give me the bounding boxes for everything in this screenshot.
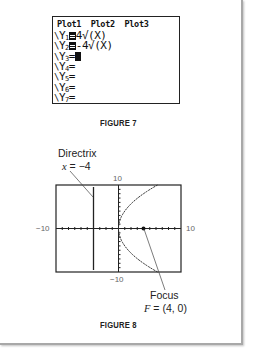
focus-label: Focus	[150, 289, 179, 301]
focus-equation: F = (4, 0)	[144, 302, 187, 314]
parabola-graph	[0, 0, 255, 362]
directrix-leader	[70, 171, 93, 197]
figure-8-caption: FIGURE 8	[100, 320, 137, 330]
focus-leader	[144, 229, 165, 290]
focus-point	[142, 227, 146, 231]
